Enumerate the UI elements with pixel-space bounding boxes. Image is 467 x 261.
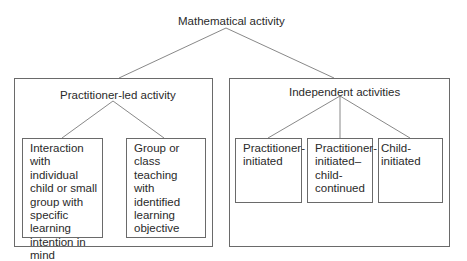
leaf-practitioner-initiated: Practitioner-initiated	[235, 138, 302, 203]
root-node-mathematical-activity: Mathematical activity	[178, 15, 285, 28]
group-label-practitioner-led: Practitioner-led activity	[60, 89, 176, 102]
group-label-independent-activities: Independent activities	[289, 86, 400, 99]
leaf-child-initiated: Child-initiated	[378, 138, 443, 203]
leaf-group-class-teaching: Group or class teaching with identified …	[126, 138, 206, 238]
leaf-practitioner-initiated-child-continued: Practitioner-initiated–child-continued	[307, 138, 373, 203]
leaf-interaction-individual-child: Interaction with individual child or sma…	[22, 138, 103, 238]
